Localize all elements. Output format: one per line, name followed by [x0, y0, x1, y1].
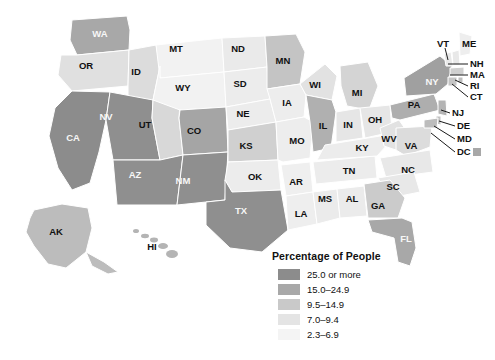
state-label-WI: WI: [309, 79, 321, 90]
state-label-MT: MT: [169, 43, 183, 54]
state-shape-ND[interactable]: [222, 36, 267, 72]
legend-rows: 25.0 or more15.0–24.99.5–14.97.0–9.42.3–…: [272, 267, 412, 341]
dc-swatch-icon: [473, 148, 481, 156]
state-label-OH: OH: [368, 114, 382, 125]
state-label-LA: LA: [295, 208, 308, 219]
state-label-MN: MN: [276, 55, 291, 66]
state-label-CA: CA: [66, 132, 80, 143]
state-label-HI: HI: [147, 241, 157, 252]
state-label-MS: MS: [318, 193, 332, 204]
state-label-NE: NE: [236, 108, 249, 119]
leader-label-DC: DC: [457, 146, 471, 157]
state-shape-MD[interactable]: [424, 118, 438, 128]
state-label-OK: OK: [248, 171, 262, 182]
state-label-AK: AK: [49, 226, 63, 237]
legend-label: 2.3–6.9: [307, 329, 339, 340]
state-label-WY: WY: [175, 82, 191, 93]
legend-label: 7.0–9.4: [307, 314, 339, 325]
legend-swatch-icon: [278, 314, 300, 325]
us-map-svg: WAORIDMTWYNDSDNEMNIAWIMINVUTCOKSMOILINOH…: [0, 0, 495, 360]
state-label-AR: AR: [289, 176, 303, 187]
map-legend: Percentage of People 25.0 or more15.0–24…: [272, 250, 412, 342]
state-label-MI: MI: [352, 87, 363, 98]
legend-row[interactable]: 9.5–14.9: [272, 297, 412, 311]
legend-swatch-icon: [278, 299, 300, 310]
legend-row[interactable]: 15.0–24.9: [272, 282, 412, 296]
state-label-OR: OR: [79, 60, 93, 71]
legend-row[interactable]: 7.0–9.4: [272, 312, 412, 326]
state-label-AZ: AZ: [129, 169, 142, 180]
state-label-ND: ND: [231, 43, 245, 54]
leader-line-MD: [434, 126, 455, 139]
state-label-TN: TN: [343, 165, 356, 176]
leader-line-CT: [452, 84, 468, 97]
legend-row[interactable]: 25.0 or more: [272, 267, 412, 281]
choropleth-map: WAORIDMTWYNDSDNEMNIAWIMINVUTCOKSMOILINOH…: [0, 0, 495, 360]
leader-label-VT: VT: [437, 38, 449, 49]
legend-title: Percentage of People: [272, 250, 412, 262]
state-shape-NV[interactable]: [106, 92, 160, 160]
leader-label-MD: MD: [457, 133, 472, 144]
state-label-CO: CO: [187, 125, 201, 136]
leader-label-RI: RI: [470, 80, 480, 91]
state-label-KY: KY: [355, 142, 369, 153]
state-shape-OR[interactable]: [58, 50, 129, 91]
leader-line-DC: [431, 133, 455, 152]
legend-swatch-icon: [278, 269, 300, 280]
leader-label-NH: NH: [470, 58, 484, 69]
leader-label-DE: DE: [457, 120, 470, 131]
state-label-TX: TX: [235, 205, 248, 216]
state-label-IA: IA: [282, 97, 292, 108]
state-label-GA: GA: [371, 200, 385, 211]
legend-row[interactable]: 2.3–6.9: [272, 327, 412, 341]
state-label-ID: ID: [131, 66, 141, 77]
state-label-MO: MO: [289, 135, 304, 146]
state-label-NC: NC: [401, 164, 415, 175]
state-label-NY: NY: [425, 76, 439, 87]
state-shape-NH[interactable]: [452, 50, 460, 65]
state-shape-MT[interactable]: [156, 38, 224, 78]
state-label-SC: SC: [386, 181, 399, 192]
leader-label-NJ: NJ: [452, 107, 464, 118]
state-label-FL: FL: [400, 233, 412, 244]
state-shape-AZ[interactable]: [113, 155, 183, 205]
leader-label-CT: CT: [470, 91, 483, 102]
state-label-AL: AL: [346, 193, 359, 204]
state-label-NM: NM: [176, 175, 191, 186]
state-label-NV: NV: [99, 111, 113, 122]
state-shape-AK-tail[interactable]: [86, 252, 118, 274]
state-label-KS: KS: [239, 140, 252, 151]
state-label-SD: SD: [233, 78, 246, 89]
legend-label: 9.5–14.9: [307, 299, 344, 310]
state-label-IL: IL: [319, 120, 328, 131]
legend-label: 25.0 or more: [307, 269, 361, 280]
state-label-PA: PA: [408, 99, 421, 110]
legend-swatch-icon: [278, 329, 300, 340]
state-shape-NJ[interactable]: [438, 100, 447, 116]
legend-label: 15.0–24.9: [307, 284, 349, 295]
state-label-UT: UT: [139, 119, 152, 130]
leader-label-ME: ME: [462, 38, 476, 49]
state-label-IN: IN: [343, 119, 353, 130]
legend-swatch-icon: [278, 284, 300, 295]
state-label-VA: VA: [405, 140, 418, 151]
leader-label-MA: MA: [470, 69, 485, 80]
state-label-WA: WA: [92, 28, 107, 39]
state-label-WV: WV: [381, 133, 397, 144]
